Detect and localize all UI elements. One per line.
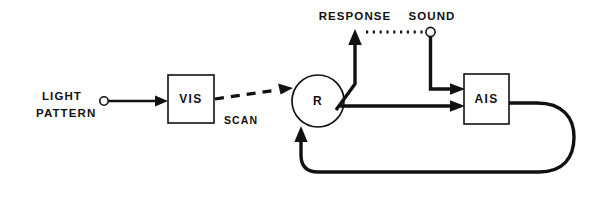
edge-scan-label: SCAN [224,114,258,126]
light-pattern-label-line1: LIGHT [42,90,82,102]
arrowhead-sound-into-ais [450,83,465,95]
arrowhead-r-into-ais [450,100,465,112]
light-pattern-label-line2: PATTERN [36,107,96,119]
node-vis-label: VIS [179,92,203,106]
arrowhead-scan-into-r [278,84,293,95]
diagram-canvas: LIGHT PATTERN VIS SCAN R RESPONSE SOUND [0,0,594,202]
arrowhead-feedback-into-r [294,126,307,142]
sound-open-circle-icon [426,27,435,36]
arrowhead-into-vis [155,96,168,107]
edge-ais-feedback-loop [301,103,574,172]
edge-scan-dashed [215,90,277,99]
response-label: RESPONSE [319,10,392,22]
sound-label: SOUND [408,10,455,22]
block-flow-diagram: LIGHT PATTERN VIS SCAN R RESPONSE SOUND [0,0,594,202]
arrowhead-response-up [348,29,362,45]
edge-sound-to-ais [431,37,453,89]
light-pattern-open-circle-icon [100,97,108,105]
node-r-label: R [313,94,323,108]
node-ais-label: AIS [474,92,498,106]
